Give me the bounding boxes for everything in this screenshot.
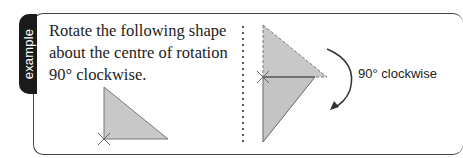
rotated-triangle — [263, 77, 315, 142]
original-triangle-dashed — [263, 25, 327, 77]
dotted-divider — [242, 24, 244, 146]
clockwise-arrow-icon — [327, 49, 352, 108]
rotation-label: 90° clockwise — [358, 66, 437, 81]
original-triangle — [104, 87, 168, 139]
